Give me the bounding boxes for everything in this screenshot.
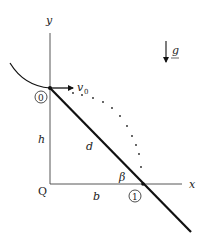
point-0-label: 0 bbox=[38, 93, 44, 103]
base-label: b bbox=[93, 190, 100, 203]
origin-label: Q bbox=[38, 185, 47, 198]
height-label: h bbox=[38, 133, 45, 146]
slope-line bbox=[50, 88, 191, 232]
y-axis-label: y bbox=[45, 14, 53, 27]
point-1-label: 1 bbox=[132, 192, 138, 202]
gravity-label: g bbox=[172, 44, 179, 57]
approach-curve bbox=[10, 63, 50, 88]
x-axis-label: x bbox=[189, 178, 196, 191]
velocity-subscript: 0 bbox=[84, 88, 88, 96]
velocity-label: v bbox=[77, 81, 84, 94]
projectile-slope-diagram: g y x Q v 0 0 1 h d b β bbox=[0, 0, 209, 249]
trajectory-dots bbox=[72, 92, 142, 168]
point-1-dot bbox=[141, 182, 145, 186]
angle-label: β bbox=[118, 171, 125, 184]
distance-label: d bbox=[86, 140, 93, 153]
